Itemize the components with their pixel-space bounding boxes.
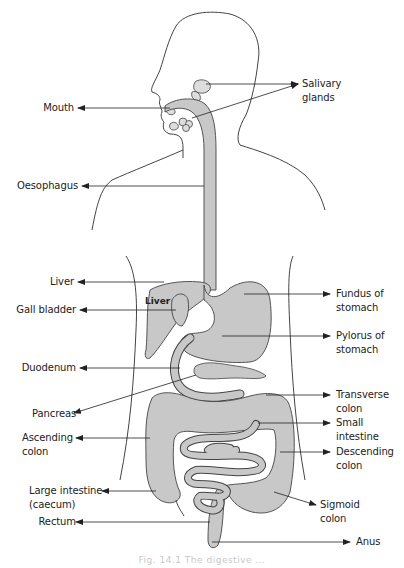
label-fundus: Fundus of stomach (336, 287, 384, 315)
figure-caption: Fig. 14.1 The digestive ... (0, 555, 404, 565)
label-pancreas: Pancreas (32, 407, 76, 421)
inline-liver-label: Liver (145, 296, 170, 306)
label-large-intestine: Large intestine (caecum) (29, 484, 102, 512)
appendix-shape (176, 500, 184, 516)
pancreas-shape (194, 363, 266, 379)
label-salivary-glands: Salivary glands (302, 77, 341, 105)
label-descending-colon: Descending colon (336, 445, 394, 473)
label-sigmoid-colon: Sigmoid colon (320, 498, 360, 526)
label-transverse-colon: Transverse colon (336, 388, 389, 416)
label-gall-bladder: Gall bladder (16, 303, 76, 317)
label-anus: Anus (356, 535, 380, 549)
label-liver: Liver (50, 275, 74, 289)
label-small-intestine: Small intestine (336, 416, 379, 444)
label-duodenum: Duodenum (22, 361, 76, 375)
label-ascending-colon: Ascending colon (22, 431, 73, 459)
label-pylorus: Pylorus of stomach (336, 329, 384, 357)
label-rectum: Rectum (38, 515, 76, 529)
label-oesophagus: Oesophagus (17, 179, 78, 193)
label-mouth: Mouth (43, 101, 74, 115)
